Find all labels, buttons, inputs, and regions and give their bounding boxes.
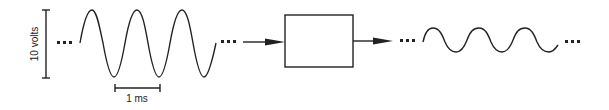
system-block <box>285 15 353 67</box>
amplitude-scale-bar <box>42 10 50 78</box>
continuation-dots-after-block <box>400 39 415 42</box>
input-arrowhead-icon <box>265 39 285 46</box>
amplitude-label: 10 volts <box>29 27 40 61</box>
signal-filter-diagram: 10 volts 1 ms <box>0 0 609 110</box>
output-sine-wave <box>423 28 558 52</box>
continuation-dots-left <box>57 41 72 44</box>
time-scale-bar <box>115 84 160 92</box>
time-label: 1 ms <box>126 93 148 104</box>
output-arrowhead-icon <box>373 38 393 45</box>
input-sine-wave <box>80 10 216 77</box>
continuation-dots-mid <box>221 40 236 43</box>
continuation-dots-right <box>565 40 580 43</box>
